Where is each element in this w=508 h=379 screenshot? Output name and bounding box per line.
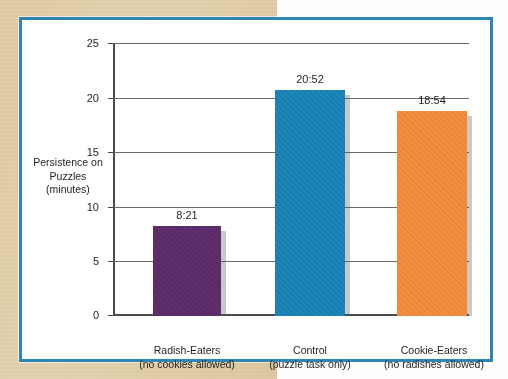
x-category-line-1: Control <box>240 343 380 357</box>
y-tick-label-0: 0 <box>93 309 99 321</box>
x-category-label-radish-eaters: Radish-Eaters (no cookies allowed) <box>117 343 257 371</box>
bar-value-label-radish-eaters: 8:21 <box>176 209 197 221</box>
y-tick-15: 15 <box>108 152 114 153</box>
x-category-label-cookie-eaters: Cookie-Eaters (no radishes allowed) <box>362 343 506 371</box>
gridline-25 <box>113 43 469 44</box>
y-tick-20: 20 <box>108 98 114 99</box>
y-tick-label-10: 10 <box>87 201 99 213</box>
y-axis-title: Persistence on Puzzles (minutes) <box>30 156 106 197</box>
bar-radish-eaters[interactable]: 8:21 <box>153 226 221 317</box>
axes: 25 20 15 10 5 <box>113 43 469 316</box>
chart-plot-area: Persistence on Puzzles (minutes) 25 20 <box>22 20 490 359</box>
y-tick-10: 10 <box>108 207 114 208</box>
y-tick-label-20: 20 <box>87 92 99 104</box>
figure-page: Persistence on Puzzles (minutes) 25 20 <box>0 0 508 379</box>
y-axis-line <box>113 43 115 316</box>
y-axis-title-line-4: (minutes) <box>46 183 90 195</box>
chart-card: Persistence on Puzzles (minutes) 25 20 <box>19 17 493 362</box>
y-tick-label-25: 25 <box>87 37 99 49</box>
y-axis-title-line-3: Puzzles <box>50 170 87 182</box>
y-axis-title-line-1: Persistence <box>33 156 88 168</box>
bar-fill-orange <box>397 111 467 316</box>
bar-shadow <box>467 116 472 316</box>
y-tick-5: 5 <box>108 261 114 262</box>
bar-shadow <box>345 95 350 316</box>
y-tick-25: 25 <box>108 43 114 44</box>
bar-cookie-eaters[interactable]: 18:54 <box>397 111 467 316</box>
x-category-line-2: (no cookies allowed) <box>117 357 257 371</box>
bar-value-label-cookie-eaters: 18:54 <box>418 94 446 106</box>
bar-shadow <box>221 231 226 317</box>
x-category-line-2: (no radishes allowed) <box>362 357 506 371</box>
x-category-line-1: Radish-Eaters <box>117 343 257 357</box>
bar-fill-blue <box>275 90 345 316</box>
x-category-line-1: Cookie-Eaters <box>362 343 506 357</box>
bar-control[interactable]: 20:52 <box>275 90 345 316</box>
bar-fill-purple <box>153 226 221 317</box>
y-tick-label-5: 5 <box>93 255 99 267</box>
x-category-line-2: (puzzle task only) <box>240 357 380 371</box>
bar-value-label-control: 20:52 <box>296 73 324 85</box>
y-tick-0: 0 <box>108 315 114 316</box>
y-tick-label-15: 15 <box>87 146 99 158</box>
x-category-label-control: Control (puzzle task only) <box>240 343 380 371</box>
